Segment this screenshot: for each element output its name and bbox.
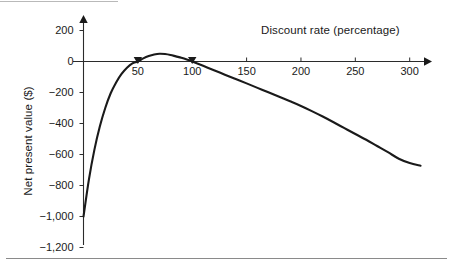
y-axis-tick-label: −200 xyxy=(28,86,74,98)
y-axis-tick-label: −1,000 xyxy=(28,210,74,222)
x-axis-tick-label: 300 xyxy=(390,65,430,77)
y-axis-tick-label: −800 xyxy=(28,179,74,191)
x-axis-tick-label: 100 xyxy=(172,65,212,77)
bottom-divider-rule xyxy=(6,258,447,259)
y-axis-tick-label: 200 xyxy=(28,24,74,36)
x-axis-tick-label: 200 xyxy=(281,65,321,77)
y-axis-tick-label: 0 xyxy=(28,55,74,67)
y-axis-arrow-icon xyxy=(79,15,87,23)
x-axis-tick-label: 150 xyxy=(227,65,267,77)
x-axis-title: Discount rate (percentage) xyxy=(261,24,400,36)
x-axis-tick-label: 50 xyxy=(118,65,158,77)
chart-plot-area xyxy=(0,0,451,269)
y-axis-tick-label: −600 xyxy=(28,148,74,160)
y-axis-tick-label: −1,200 xyxy=(28,241,74,253)
npv-chart-figure: Discount rate (percentage) Net present v… xyxy=(0,0,451,269)
npv-curve-line xyxy=(84,54,421,217)
y-axis-tick-label: −400 xyxy=(28,117,74,129)
x-axis-tick-label: 250 xyxy=(335,65,375,77)
